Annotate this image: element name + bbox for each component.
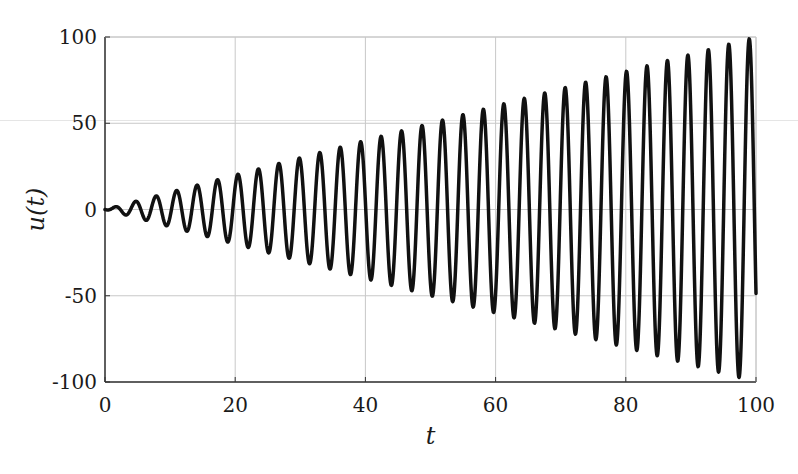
data-series-u-of-t — [105, 39, 756, 378]
x-tick-label: 100 — [737, 393, 775, 417]
x-tick-label: 60 — [483, 393, 508, 417]
x-tick-label: 0 — [99, 393, 112, 417]
y-axis-label: u(t) — [22, 188, 50, 232]
x-tick-label: 20 — [222, 393, 247, 417]
y-tick-label: 50 — [72, 111, 97, 135]
y-tick-label: -100 — [52, 370, 97, 394]
x-axis-label: t — [426, 422, 436, 450]
x-tick-label: 40 — [353, 393, 378, 417]
x-axis-ticks: 020406080100 — [99, 377, 775, 417]
line-chart: 020406080100 -100-50050100 t u(t) — [0, 0, 798, 474]
y-tick-label: 0 — [84, 198, 97, 222]
x-tick-label: 80 — [613, 393, 638, 417]
y-axis-ticks: -100-50050100 — [52, 25, 110, 394]
y-tick-label: 100 — [59, 25, 97, 49]
y-tick-label: -50 — [65, 284, 97, 308]
